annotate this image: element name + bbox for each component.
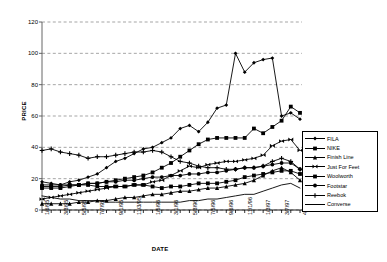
legend-marker-icon	[305, 181, 325, 190]
data-point	[313, 165, 318, 169]
legend-marker-icon	[305, 191, 325, 200]
chart-legend: FILANIKEFinish LineJust For FeetWoolwort…	[302, 131, 378, 212]
x-tick-label: 11/3/95	[136, 197, 142, 215]
x-tick-label: 3/1/96	[173, 200, 179, 215]
legend-label: Footstar	[327, 183, 347, 189]
data-point	[313, 193, 318, 198]
legend-marker-icon	[305, 153, 325, 162]
x-tick-label: 7/5/96	[210, 200, 216, 215]
legend-marker-icon	[305, 172, 325, 181]
legend-label: Finish Line	[327, 154, 354, 160]
legend-label: Woolworth	[327, 173, 353, 179]
x-tick-label: 11/1/96	[247, 197, 253, 215]
legend-item[interactable]: Footstar	[305, 181, 375, 190]
x-tick-label: 1/5/96	[155, 200, 161, 215]
data-point	[313, 184, 317, 188]
legend-marker-icon	[305, 144, 325, 153]
legend-label: Just For Feet	[327, 164, 359, 170]
legend-marker-icon	[305, 134, 325, 143]
legend-item[interactable]: Converse	[305, 200, 375, 209]
legend-label: Reebok	[327, 192, 346, 198]
x-tick-label: 1/3/97	[265, 200, 271, 215]
x-tick-label: 5/3/96	[192, 200, 198, 215]
x-tick-label: 3/7/97	[284, 200, 290, 215]
x-tick-label: 1/6/95	[44, 200, 50, 215]
legend-label: FILA	[327, 136, 339, 142]
data-point	[313, 137, 317, 141]
x-tick-label: 9/1/95	[118, 200, 124, 215]
legend-marker-icon	[305, 162, 325, 171]
legend-item[interactable]: Finish Line	[305, 153, 375, 162]
x-tick-label: 9/6/96	[228, 200, 234, 215]
legend-item[interactable]: Woolworth	[305, 172, 375, 181]
legend-label: Converse	[327, 201, 351, 207]
legend-item[interactable]: Reebok	[305, 190, 375, 199]
legend-label: NIKE	[327, 145, 340, 151]
x-tick-label: 7/7/95	[99, 200, 105, 215]
data-point	[313, 155, 317, 159]
price-line-chart: PRICE DATE 020406080100120 1/6/953/3/955…	[0, 0, 387, 262]
legend-item[interactable]: NIKE	[305, 143, 375, 152]
x-tick-label: 5/5/95	[81, 200, 87, 215]
legend-item[interactable]: Just For Feet	[305, 162, 375, 171]
legend-marker-icon	[305, 200, 325, 209]
data-point	[313, 174, 317, 178]
x-tick-label: 3/3/95	[63, 200, 69, 215]
legend-item[interactable]: FILA	[305, 134, 375, 143]
data-point	[313, 146, 317, 150]
